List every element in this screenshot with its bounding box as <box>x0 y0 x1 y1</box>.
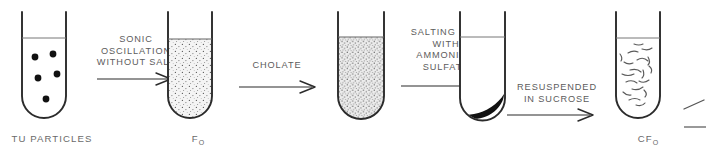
tube-label-5: CFO <box>596 133 700 146</box>
tube-label-5-sub: O <box>653 139 658 146</box>
cropped-arrow-shaft-icon <box>684 124 706 130</box>
cropped-arrow-head-icon <box>684 98 706 112</box>
step-2-line-1: CHOLATE <box>236 60 318 72</box>
diagram-canvas: TU PARTICLES SONIC OSCILLATION WITHOUT S… <box>0 0 706 159</box>
test-tube-2 <box>160 8 236 138</box>
test-tube-5 <box>608 8 688 138</box>
tu-particle <box>32 54 39 61</box>
tube-label-1-text: TU PARTICLES <box>11 133 92 144</box>
tu-particle <box>43 96 50 103</box>
test-tube-1 <box>14 8 90 138</box>
tube-label-5-text: CF <box>638 133 653 144</box>
tu-particle <box>35 75 42 82</box>
step-label-4: RESUSPENDED IN SUCROSE <box>504 82 610 105</box>
tube-label-2: FO <box>146 133 250 146</box>
tube-outline-1 <box>22 12 66 118</box>
process-arrow-4 <box>506 108 598 122</box>
tu-particle <box>50 51 57 58</box>
tube-outline-5 <box>616 12 660 118</box>
tu-particle <box>54 71 61 78</box>
process-arrow-2 <box>238 80 320 94</box>
step-4-line-2: IN SUCROSE <box>504 94 610 106</box>
cropped-arrow-head-stroke <box>684 100 704 109</box>
tube-label-2-text: F <box>192 133 199 144</box>
tube-label-2-sub: O <box>199 139 204 146</box>
tube-label-1: TU PARTICLES <box>0 133 104 144</box>
suspension-fill-2 <box>160 8 236 138</box>
step-label-2: CHOLATE <box>236 60 318 72</box>
step-4-line-1: RESUSPENDED <box>504 82 610 94</box>
